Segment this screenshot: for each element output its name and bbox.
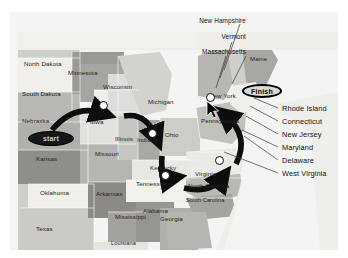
state-label-louisiana: Louisiana <box>111 240 136 246</box>
state-label-north-carolina: North Carolina <box>188 182 229 189</box>
start-badge[interactable]: start <box>28 131 74 146</box>
callout-west-virginia: West Virginia <box>282 169 327 178</box>
state-label-north-dakota: North Dakota <box>24 60 62 67</box>
state-label-ohio: Ohio <box>165 131 178 138</box>
state-label-georgia: Georgia <box>160 215 183 222</box>
state-label-mississippi: Mississippi <box>115 213 146 220</box>
callout-massachusetts: Massachusetts <box>170 48 246 55</box>
state-label-wisconsin: Wisconsin <box>103 83 132 90</box>
state-label-michigan: Michigan <box>148 98 174 105</box>
state-label-arkansas: Arkansas <box>96 190 123 197</box>
callout-maryland: Maryland <box>282 143 313 152</box>
state-label-tennessee: Tennessee <box>136 180 167 187</box>
state-label-nebraska: Nebraska <box>22 117 49 124</box>
callout-delaware: Delaware <box>282 156 314 165</box>
state-label-kansas: Kansas <box>36 155 57 162</box>
map-screenshot: North Dakota South Dakota Nebraska Kansa… <box>0 0 348 258</box>
finish-badge[interactable]: Finish <box>242 84 282 98</box>
state-label-maine: Maine <box>250 55 267 62</box>
state-label-south-dakota: South Dakota <box>22 90 61 97</box>
state-label-oklahoma: Oklahoma <box>40 189 69 196</box>
route-marker-indiana[interactable] <box>148 129 157 138</box>
callout-vermont: Vermont <box>176 33 246 40</box>
route-marker-tennessee[interactable] <box>161 171 170 180</box>
state-label-minnesota: Minnesota <box>68 69 97 76</box>
state-label-iowa: Iowa <box>90 118 103 125</box>
state-label-kentucky: Kentucky <box>150 164 176 171</box>
state-label-pennsylvania: Pennsylvania <box>201 117 239 124</box>
route-marker-virginia[interactable] <box>215 156 224 165</box>
map-canvas[interactable]: North Dakota South Dakota Nebraska Kansa… <box>10 12 338 250</box>
state-label-missouri: Missouri <box>95 150 119 157</box>
state-label-alabama: Alabama <box>143 207 168 214</box>
state-label-virginia: Virginia <box>195 170 216 177</box>
callout-rhode-island: Rhode Island <box>282 104 327 113</box>
state-label-illinois: Illinois <box>115 135 133 142</box>
callout-connecticut: Connecticut <box>282 117 322 126</box>
state-label-texas: Texas <box>36 225 53 232</box>
callout-new-jersey: New Jersey <box>282 130 322 139</box>
state-label-south-carolina: South Carolina <box>186 197 224 203</box>
route-marker-iowa[interactable] <box>99 101 108 110</box>
callout-new-hampshire: New Hampshire <box>176 17 246 24</box>
route-marker-new-york[interactable] <box>206 93 215 102</box>
